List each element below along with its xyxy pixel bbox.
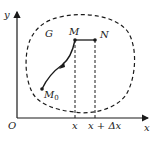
point-n-label: N bbox=[99, 29, 110, 40]
region-boundary bbox=[26, 15, 135, 113]
point-m bbox=[73, 38, 77, 42]
diagram-canvas: y G M N M0 O x x + Δx x bbox=[0, 0, 156, 145]
y-axis-label: y bbox=[3, 9, 10, 20]
path-curve bbox=[42, 40, 75, 89]
x-tick-label: x bbox=[72, 120, 78, 131]
origin-label: O bbox=[8, 120, 16, 131]
region-label: G bbox=[45, 28, 53, 39]
direction-arrow-icon bbox=[59, 62, 65, 69]
point-m0-label: M0 bbox=[43, 89, 59, 102]
point-n bbox=[93, 38, 97, 42]
x-axis-label: x bbox=[144, 122, 150, 133]
point-m-label: M bbox=[68, 26, 80, 37]
x-plus-dx-tick-label: x + Δx bbox=[88, 120, 122, 131]
